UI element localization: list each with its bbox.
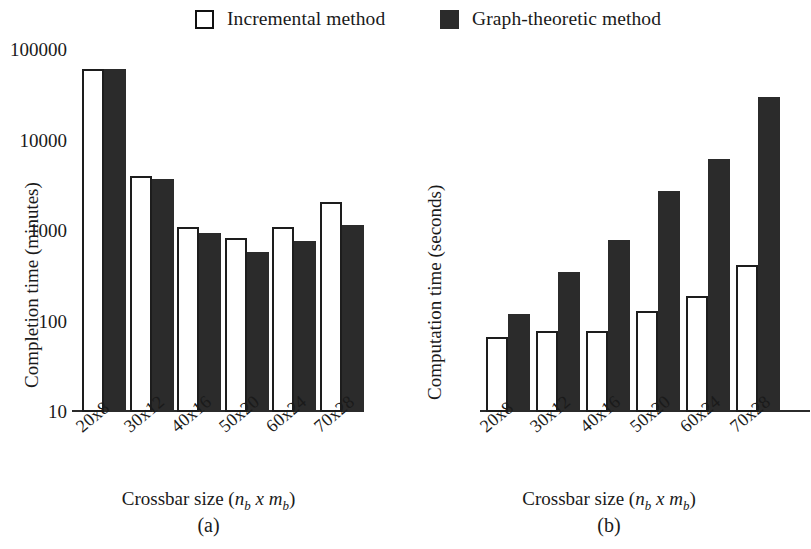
bar-graph-theoretic (247, 252, 269, 412)
x-title-n-a: n (235, 488, 245, 509)
y-tick-label: 100 (7, 311, 67, 333)
x-title-post-b: ) (689, 488, 695, 509)
x-axis-title-b: Crossbar size (nb x mb) (407, 488, 811, 514)
plot-area-a (72, 47, 362, 412)
x-title-n-b: n (635, 488, 645, 509)
bar-incremental (736, 265, 758, 412)
y-tick-label: 100000 (7, 39, 67, 61)
bar-graph-theoretic (294, 241, 316, 412)
bar-incremental (320, 202, 342, 412)
bar-group (536, 50, 580, 412)
chart-panel-b: Computation time (seconds) 1010010001000… (405, 0, 809, 549)
bar-incremental (177, 227, 199, 412)
panel-caption-a: (a) (6, 514, 411, 537)
plot-area-b (480, 50, 810, 412)
bar-incremental (686, 296, 708, 412)
chart-panel-a: Completion time (minutes) 05101520253035… (0, 0, 405, 549)
bar-incremental (272, 227, 294, 412)
bar-graph-theoretic (199, 233, 221, 412)
bar-group (586, 50, 630, 412)
y-tick-label: 10000 (7, 130, 67, 152)
bar-incremental (225, 238, 247, 412)
y-tick-label: 10 (7, 401, 67, 423)
x-title-pre-b: Crossbar size ( (522, 488, 635, 509)
panel-caption-b: (b) (407, 514, 811, 537)
bar-group (177, 47, 221, 412)
bar-group (736, 50, 780, 412)
x-axis-title-a: Crossbar size (nb x mb) (6, 488, 411, 514)
bar-group (225, 47, 269, 412)
bar-graph-theoretic (508, 314, 530, 412)
x-title-pre-a: Crossbar size ( (122, 488, 235, 509)
bar-incremental (82, 69, 104, 412)
x-title-x-a: x (251, 488, 269, 509)
x-title-x-b: x (651, 488, 669, 509)
bar-group (486, 50, 530, 412)
x-title-m-b: m (669, 488, 683, 509)
x-title-m-a: m (269, 488, 283, 509)
bar-graph-theoretic (708, 159, 730, 412)
y-axis-title-a: Completion time (minutes) (21, 182, 43, 388)
bar-graph-theoretic (758, 97, 780, 412)
bar-graph-theoretic (152, 179, 174, 412)
bar-group (82, 47, 126, 412)
bar-group (272, 47, 316, 412)
bar-group (130, 47, 174, 412)
bar-graph-theoretic (608, 240, 630, 412)
bar-group (686, 50, 730, 412)
y-tick-label: 1000 (7, 220, 67, 242)
bar-group (320, 47, 364, 412)
x-title-post-a: ) (289, 488, 295, 509)
bar-graph-theoretic (104, 69, 126, 412)
bar-graph-theoretic (342, 225, 364, 412)
y-axis-title-b: Computation time (seconds) (424, 185, 446, 400)
bar-incremental (130, 176, 152, 412)
bar-group (636, 50, 680, 412)
bar-graph-theoretic (658, 191, 680, 412)
